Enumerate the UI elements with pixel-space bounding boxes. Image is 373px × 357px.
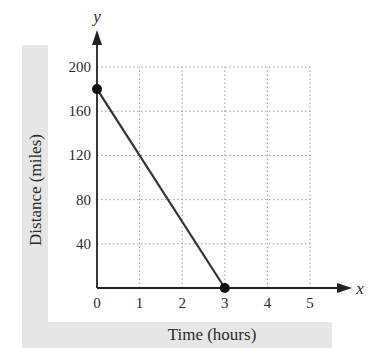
- x-axis-arrow-icon: [337, 283, 352, 293]
- axes: [97, 42, 340, 288]
- series-line: [97, 89, 225, 288]
- y-axis-name: y: [91, 7, 101, 26]
- x-tick-label: 5: [306, 295, 314, 311]
- chart-canvas: y x 4080120160200 012345 Distance (miles…: [0, 0, 373, 357]
- y-tick-label: 40: [76, 236, 91, 252]
- y-axis-label: Distance (miles): [26, 134, 45, 246]
- data-point-marker: [92, 84, 102, 94]
- x-tick-labels: 012345: [93, 295, 314, 311]
- x-tick-label: 3: [221, 295, 229, 311]
- x-tick-label: 2: [178, 295, 186, 311]
- x-tick-label: 4: [264, 295, 272, 311]
- x-tick-label: 1: [136, 295, 144, 311]
- y-axis-arrow-icon: [92, 30, 102, 45]
- data-point-marker: [220, 283, 230, 293]
- y-tick-label: 200: [69, 59, 92, 75]
- y-tick-label: 80: [76, 192, 91, 208]
- x-axis-label: Time (hours): [168, 325, 257, 344]
- y-tick-label: 160: [69, 103, 92, 119]
- y-tick-label: 120: [69, 147, 92, 163]
- y-tick-labels: 4080120160200: [69, 59, 92, 252]
- x-tick-label: 0: [93, 295, 101, 311]
- data-series: [92, 84, 230, 293]
- x-axis-name: x: [355, 279, 364, 298]
